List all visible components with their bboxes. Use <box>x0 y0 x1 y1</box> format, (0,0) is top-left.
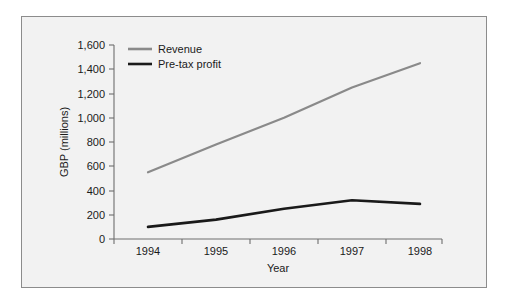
x-axis-ticks <box>114 239 442 244</box>
legend-label-revenue: Revenue <box>158 43 202 55</box>
y-tick-label: 600 <box>87 160 105 172</box>
y-tick-label: 1,600 <box>77 39 105 51</box>
x-tick-label: 1998 <box>408 245 432 257</box>
x-tick-label: 1996 <box>272 245 296 257</box>
legend-label-pre-tax-profit: Pre-tax profit <box>158 58 221 70</box>
x-axis-title: Year <box>267 262 290 274</box>
y-tick-label: 800 <box>87 136 105 148</box>
chart-figure-frame: 1,600 1,400 1,200 1,000 800 600 400 200 … <box>21 16 487 288</box>
series-line-pre-tax-profit <box>148 200 420 227</box>
y-tick-label: 1,200 <box>77 88 105 100</box>
y-tick-label: 1,400 <box>77 63 105 75</box>
y-axis-tick-labels: 1,600 1,400 1,200 1,000 800 600 400 200 … <box>77 39 105 245</box>
line-chart: 1,600 1,400 1,200 1,000 800 600 400 200 … <box>22 17 486 287</box>
y-axis-title: GBP (millions) <box>58 107 70 177</box>
x-axis-tick-labels: 1994 1995 1996 1997 1998 <box>136 245 432 257</box>
y-axis-ticks <box>109 45 114 239</box>
series-layer <box>148 63 420 227</box>
y-tick-label: 200 <box>87 209 105 221</box>
x-tick-label: 1997 <box>340 245 364 257</box>
series-line-revenue <box>148 63 420 172</box>
y-tick-label: 0 <box>99 233 105 245</box>
y-tick-label: 1,000 <box>77 112 105 124</box>
x-tick-label: 1995 <box>204 245 228 257</box>
x-tick-label: 1994 <box>136 245 160 257</box>
y-tick-label: 400 <box>87 185 105 197</box>
chart-legend: Revenue Pre-tax profit <box>128 43 221 70</box>
